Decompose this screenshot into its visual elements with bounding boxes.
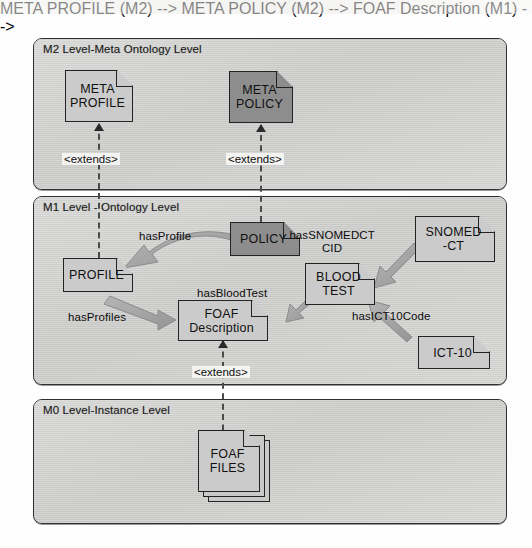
node-foaf-files[interactable]: FOAF FILES: [198, 430, 260, 492]
node-label-line2: Description: [189, 321, 254, 335]
node-label-line1: META: [80, 82, 115, 96]
extends-label-profile: <extends>: [62, 153, 120, 165]
relation-label-has-blood-test: hasBloodTest: [197, 287, 267, 299]
node-label: SNOMED -CT: [415, 216, 495, 262]
node-label-line2: FILES: [210, 461, 246, 475]
node-snomed-ct[interactable]: SNOMED -CT: [415, 216, 495, 262]
extends-line-profile: [98, 124, 100, 258]
node-label-line1: POLICY: [240, 232, 287, 246]
node-label-line2: POLICY: [236, 97, 283, 111]
relation-label-has-profiles: hasProfiles: [68, 311, 126, 323]
extends-connector-foaf: [216, 341, 230, 441]
level-panel-m0: M0 Level-Instance Level: [33, 399, 507, 524]
extends-connector-profile: [92, 124, 106, 258]
node-label-line1: PROFILE: [69, 268, 124, 282]
node-label: ICT-10: [418, 336, 490, 369]
node-label-line1: ICT-10: [433, 346, 472, 360]
node-label-line1: FOAF: [210, 447, 244, 461]
relation-label-line1: hasSNOMEDCT: [289, 229, 374, 241]
extends-arrowhead-policy: [256, 124, 266, 132]
extends-line-foaf: [222, 341, 224, 441]
node-label-line2: TEST: [322, 284, 355, 298]
node-meta-policy[interactable]: META POLICY: [229, 71, 293, 123]
level-title-m0: M0 Level-Instance Level: [43, 404, 170, 416]
relation-label-has-snomedct-cid: hasSNOMEDCT CID: [286, 229, 378, 255]
level-title-m2: M2 Level-Meta Ontology Level: [43, 43, 202, 55]
node-label-line1: META: [242, 83, 277, 97]
node-label: FOAF FILES: [198, 430, 260, 492]
extends-line-policy: [260, 125, 262, 222]
node-label-line1: SNOMED: [425, 225, 481, 239]
node-label: META PROFILE: [65, 70, 133, 122]
extends-arrowhead-foaf: [218, 340, 228, 348]
extends-label-policy: <extends>: [226, 153, 284, 165]
node-label-line1: FOAF: [204, 307, 238, 321]
node-ict-10[interactable]: ICT-10: [418, 336, 490, 369]
extends-label-foaf: <extends>: [192, 366, 250, 378]
node-label: FOAF Description: [178, 300, 268, 341]
node-foaf-description[interactable]: FOAF Description: [178, 300, 268, 341]
node-blood-test[interactable]: BLOOD TEST: [305, 263, 375, 305]
node-label-line1: BLOOD: [316, 270, 361, 284]
node-label-line2: PROFILE: [70, 96, 125, 110]
node-label: PROFILE: [63, 258, 133, 292]
node-label: BLOOD TEST: [305, 263, 375, 305]
node-profile[interactable]: PROFILE: [63, 258, 133, 292]
node-label-line2: -CT: [443, 239, 464, 253]
node-label: META POLICY: [229, 71, 293, 123]
extends-arrowhead-profile: [94, 123, 104, 131]
extends-connector-policy: [254, 125, 268, 222]
relation-label-has-ict10-code: hasICT10Code: [352, 310, 431, 322]
scan-edge-artifact: [0, 0, 532, 14]
panel-texture-m0: [34, 400, 506, 523]
diagram-canvas: M2 Level-Meta Ontology Level M1 Level - …: [0, 0, 532, 548]
node-meta-profile[interactable]: META PROFILE: [65, 70, 133, 122]
level-title-m1: M1 Level - Ontology Level: [43, 201, 179, 213]
relation-label-line2: CID: [322, 242, 342, 254]
relation-label-has-profile: hasProfile: [139, 230, 191, 242]
